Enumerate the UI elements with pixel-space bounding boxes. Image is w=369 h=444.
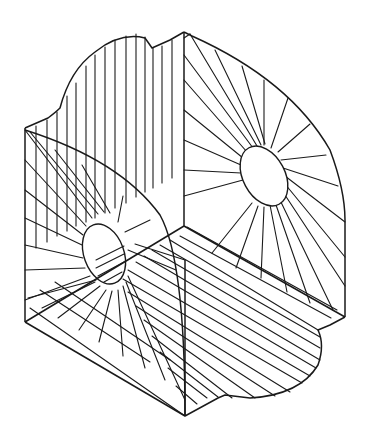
bottom-right-face-parallel-hatching [123, 227, 337, 404]
upper-elliptical-hole [230, 138, 297, 214]
lower-elliptical-hole [75, 218, 134, 290]
shape-outline [25, 32, 345, 416]
isometric-wireframe-figure [0, 0, 369, 444]
